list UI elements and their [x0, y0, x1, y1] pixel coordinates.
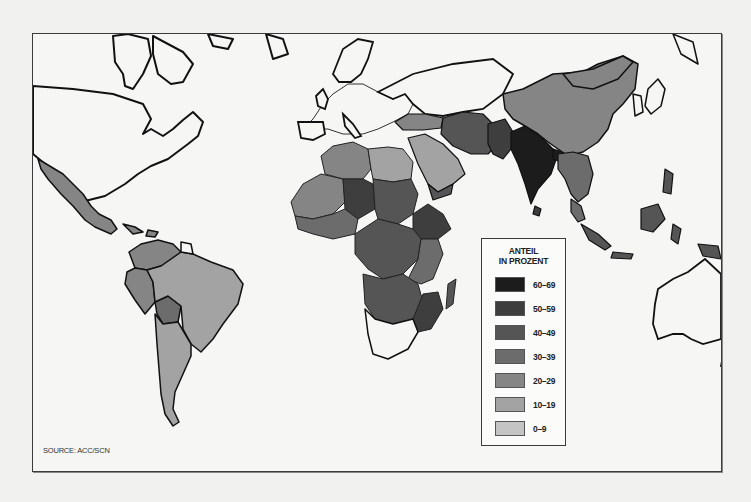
legend-swatch: [495, 349, 525, 364]
legend-label: 60–69: [533, 280, 555, 290]
region-north-africa-west: [321, 142, 371, 179]
legend-swatch: [495, 373, 525, 388]
legend-swatch: [495, 301, 525, 316]
region-canada-north: [153, 36, 193, 84]
region-madagascar: [446, 279, 456, 309]
region-philippines: [663, 169, 673, 194]
region-kamchatka: [673, 34, 698, 64]
legend-swatch: [495, 277, 525, 292]
legend-item: 30–39: [495, 349, 555, 364]
legend-swatch: [495, 421, 525, 436]
region-greenland: [113, 34, 151, 89]
legend-label: 20–29: [533, 376, 555, 386]
legend-item: 40–49: [495, 325, 555, 340]
region-guianas: [181, 242, 193, 254]
legend-label: 10–19: [533, 400, 555, 410]
legend-swatch: [495, 325, 525, 340]
region-iberia: [298, 122, 325, 140]
region-papua: [698, 244, 721, 259]
region-central-africa: [355, 219, 421, 279]
source-label: SOURCE: ACC/SCN: [43, 446, 110, 455]
legend-item: 10–19: [495, 397, 555, 412]
legend-items: 60–69 50–59 40–49 30–39 20–29 10–19: [495, 277, 555, 445]
region-uk: [316, 89, 328, 109]
region-libya-egypt: [368, 147, 413, 182]
legend-label: 30–39: [533, 352, 555, 362]
region-mainland-sea: [558, 152, 593, 202]
region-scandinavia: [333, 39, 373, 82]
legend-item: 20–29: [495, 373, 555, 388]
region-sulawesi: [671, 224, 681, 244]
legend: ANTEIL IN PROZENT 60–69 50–59 40–49 30–3…: [481, 238, 566, 446]
legend-title-line1: ANTEIL: [482, 246, 565, 256]
legend-label: 50–59: [533, 304, 555, 314]
region-caribbean: [123, 224, 158, 237]
legend-item: 60–69: [495, 277, 555, 292]
legend-item: 0–9: [495, 421, 555, 436]
legend-label: 40–49: [533, 328, 555, 338]
region-japan: [645, 79, 665, 114]
region-ethiopia: [413, 204, 451, 239]
legend-swatch: [495, 397, 525, 412]
region-sri-lanka: [533, 206, 541, 216]
region-borneo: [641, 204, 665, 232]
legend-title-line2: IN PROZENT: [482, 256, 565, 266]
region-australia: [653, 259, 721, 344]
map-frame: ANTEIL IN PROZENT 60–69 50–59 40–49 30–3…: [32, 33, 722, 472]
region-sumatra: [581, 224, 611, 250]
region-pakistan: [488, 119, 513, 159]
legend-title: ANTEIL IN PROZENT: [482, 246, 565, 266]
region-sudan: [373, 179, 418, 224]
world-map: [33, 34, 721, 471]
region-korea: [633, 94, 643, 116]
legend-label: 0–9: [533, 424, 546, 434]
legend-item: 50–59: [495, 301, 555, 316]
region-java: [611, 252, 633, 259]
